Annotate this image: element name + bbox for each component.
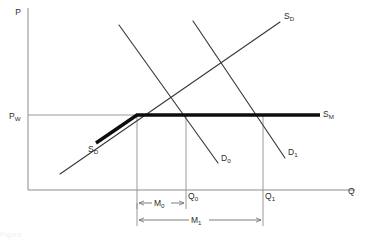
world-supply-label: SM: [323, 109, 334, 120]
dimension-m0-label: M0: [154, 198, 165, 209]
world-price-label: PW: [9, 111, 21, 122]
x-axis-label: Q: [348, 186, 355, 196]
drop-lines-group: [137, 115, 263, 190]
demand-0-label: D0: [221, 153, 231, 164]
faint-caption: Figure: [0, 231, 371, 243]
dimension-m1-label: M1: [191, 215, 202, 226]
supply-demand-diagram: P Q PW SD S: [0, 0, 371, 243]
figure-root: P Q PW SD S: [0, 0, 371, 243]
quantity-label-q1: Q1: [265, 191, 276, 202]
dimension-m1-group: M1: [137, 190, 263, 226]
demand-1-curve: [193, 21, 285, 158]
quantity-labels-group: Q0 Q1: [188, 191, 276, 202]
demand-0-curve: [119, 25, 218, 163]
axes-group: P Q: [15, 7, 355, 196]
quantity-label-q0: Q0: [188, 191, 199, 202]
domestic-supply-thick-label: SD: [88, 144, 99, 155]
y-axis-label: P: [15, 7, 21, 17]
domestic-supply-thin-label: SD: [284, 11, 295, 22]
domestic-supply-thick-curve: [96, 115, 137, 143]
demand-1-label: D1: [288, 147, 298, 158]
curves-thick-group: [96, 115, 320, 143]
dimension-m0-group: M0: [137, 190, 186, 209]
